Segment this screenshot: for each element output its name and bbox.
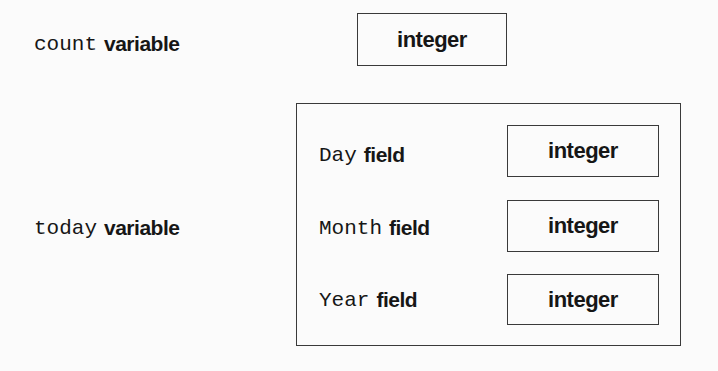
today-variable-label: today variable xyxy=(34,213,179,243)
variable-name: today xyxy=(34,217,97,240)
count-variable-label: count variable xyxy=(34,29,179,59)
type-label: integer xyxy=(548,213,618,239)
day-type-box: integer xyxy=(507,125,659,177)
field-name: Month xyxy=(319,217,382,240)
field-name: Year xyxy=(319,289,369,312)
day-field-label: Day field xyxy=(319,140,404,170)
type-label: integer xyxy=(548,287,618,313)
type-label: integer xyxy=(548,138,618,164)
year-type-box: integer xyxy=(507,274,659,325)
field-kind: field xyxy=(364,143,405,167)
field-kind: field xyxy=(389,216,430,240)
field-kind: field xyxy=(376,288,417,312)
year-field-label: Year field xyxy=(319,285,417,315)
variable-kind: variable xyxy=(104,216,179,240)
variable-name: count xyxy=(34,33,97,56)
month-type-box: integer xyxy=(507,200,659,252)
count-type-box: integer xyxy=(357,13,507,66)
month-field-label: Month field xyxy=(319,213,430,243)
type-label: integer xyxy=(397,27,467,53)
field-name: Day xyxy=(319,144,357,167)
variable-kind: variable xyxy=(104,32,179,56)
